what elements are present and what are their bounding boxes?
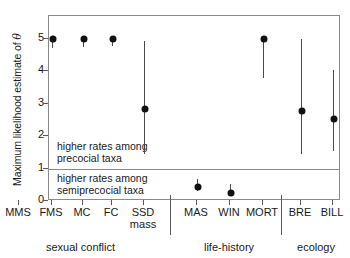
x-axis-tick xyxy=(82,200,83,205)
x-axis-tick xyxy=(143,200,144,205)
x-axis-label-line1: FMS xyxy=(39,206,62,218)
data-point xyxy=(49,36,56,43)
x-axis-tick xyxy=(51,200,52,205)
y-axis-tick-label: 2 xyxy=(30,129,44,140)
y-axis-tick xyxy=(43,200,48,201)
data-point xyxy=(194,184,201,191)
annotation-semiprecocial-line1: higher rates among xyxy=(57,172,147,185)
y-axis-tick-label: 1 xyxy=(30,162,44,173)
x-axis-label: MMS xyxy=(5,206,31,218)
figure-panel: Maximum likelihood estimate of θ 543210 … xyxy=(0,0,350,258)
y-axis-tick-label: 0 xyxy=(30,194,44,205)
x-axis-group-label: life-history xyxy=(204,241,254,253)
x-axis-label-line1: MC xyxy=(73,206,90,218)
x-axis-tick xyxy=(262,200,263,205)
y-axis-tick-label: 5 xyxy=(30,32,44,43)
x-axis-label: FMS xyxy=(39,206,62,218)
x-axis-label-line1: SSD xyxy=(132,206,155,218)
x-axis-tick xyxy=(111,200,112,205)
x-axis-tick xyxy=(18,200,19,205)
y-axis-title: Maximum likelihood estimate of θ xyxy=(11,12,24,207)
x-axis-label-line1: WIN xyxy=(218,206,239,218)
y-axis-tick xyxy=(43,70,48,71)
y-axis-tick xyxy=(43,38,48,39)
error-bar xyxy=(144,41,145,154)
x-axis-label: MORT xyxy=(246,206,278,218)
y-axis-title-text: Maximum likelihood estimate of xyxy=(11,40,23,186)
x-axis-tick xyxy=(300,200,301,205)
group-separator xyxy=(281,195,282,235)
x-axis-label-line1: BILL xyxy=(321,206,344,218)
x-axis-label: FC xyxy=(104,206,119,218)
data-point xyxy=(260,36,267,43)
data-point xyxy=(298,107,305,114)
threshold-line xyxy=(49,169,339,170)
data-point xyxy=(330,116,337,123)
x-axis-tick xyxy=(196,200,197,205)
x-axis-label-line2: mass xyxy=(130,218,156,230)
x-axis-tick xyxy=(229,200,230,205)
annotation-semiprecocial-line2: semiprecocial taxa xyxy=(57,184,147,197)
x-axis-label-line1: FC xyxy=(104,206,119,218)
annotation-precocial: higher rates among precocial taxa xyxy=(57,140,147,165)
x-axis-label: MC xyxy=(73,206,90,218)
x-axis-label-line1: MORT xyxy=(246,206,278,218)
theta-symbol: θ xyxy=(11,33,24,40)
x-axis-label-line1: MMS xyxy=(5,206,31,218)
x-axis-tick xyxy=(332,200,333,205)
y-axis-tick xyxy=(43,103,48,104)
error-bar xyxy=(263,39,264,78)
y-axis-tick xyxy=(43,135,48,136)
x-axis-label: BRE xyxy=(289,206,312,218)
x-axis-label: SSDmass xyxy=(130,206,156,230)
y-axis-tick xyxy=(43,168,48,169)
y-axis-tick-label: 3 xyxy=(30,97,44,108)
data-point xyxy=(109,36,116,43)
y-axis-tick-labels: 543210 xyxy=(24,0,44,258)
x-axis-group-label: sexual conflict xyxy=(46,241,115,253)
x-axis-label-line1: MAS xyxy=(184,206,208,218)
annotation-semiprecocial: higher rates among semiprecocial taxa xyxy=(57,172,147,197)
y-axis-tick-label: 4 xyxy=(30,64,44,75)
group-separator xyxy=(170,195,171,235)
data-point xyxy=(141,105,148,112)
data-point xyxy=(227,189,234,196)
x-axis-group-label: ecology xyxy=(297,241,335,253)
error-bar xyxy=(333,70,334,151)
plot-area: higher rates among precocial taxa higher… xyxy=(48,15,340,200)
x-axis-label: MAS xyxy=(184,206,208,218)
x-axis-label: WIN xyxy=(218,206,239,218)
x-axis-label: BILL xyxy=(321,206,344,218)
annotation-precocial-line1: higher rates among xyxy=(57,140,147,153)
x-axis: MMSFMSMCFCSSDmassMASWINMORTBREBILLsexual… xyxy=(48,200,340,258)
data-point xyxy=(80,36,87,43)
x-axis-label-line1: BRE xyxy=(289,206,312,218)
error-bar xyxy=(301,39,302,154)
annotation-precocial-line2: precocial taxa xyxy=(57,152,147,165)
